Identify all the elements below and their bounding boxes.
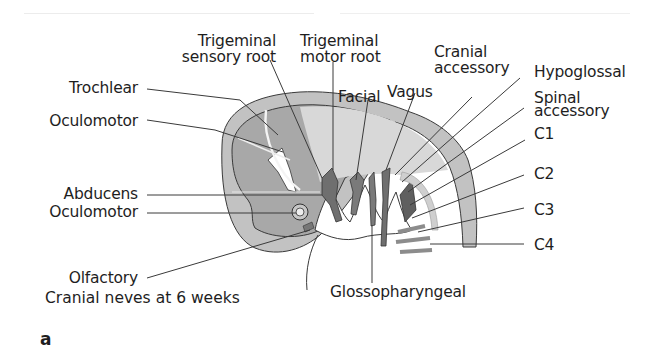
label-line: Trigeminal [300, 33, 381, 49]
label-c1: C1 [534, 126, 554, 142]
label-c2: C2 [534, 166, 554, 182]
label-line: Cranial [434, 44, 509, 60]
label-spinal-accessory: Spinal accessory [534, 92, 609, 118]
label-abducens: Abducens [40, 186, 138, 202]
label-trigeminal-sensory-root: Trigeminal sensory root [180, 33, 276, 65]
label-trigeminal-motor-root: Trigeminal motor root [300, 33, 381, 65]
label-line: Trigeminal [180, 33, 276, 49]
label-c4: C4 [534, 237, 554, 253]
lens [296, 208, 304, 216]
label-oculomotor-lower: Oculomotor [30, 204, 138, 220]
label-oculomotor-upper: Oculomotor [30, 113, 138, 129]
label-glossopharyngeal: Glossopharyngeal [330, 284, 466, 300]
label-line: motor root [300, 49, 381, 65]
figure-caption: Cranial neves at 6 weeks [45, 289, 240, 307]
label-hypoglossal: Hypoglossal [534, 64, 626, 80]
label-cranial-accessory: Cranial accessory [434, 44, 509, 76]
label-line: accessory [434, 60, 509, 76]
label-vagus: Vagus [387, 84, 433, 100]
label-trochlear: Trochlear [40, 80, 138, 96]
panel-label: a [40, 330, 51, 348]
label-facial: Facial [338, 89, 380, 105]
label-line: sensory root [180, 49, 276, 65]
label-olfactory: Olfactory [40, 270, 138, 286]
label-line: accessory [534, 105, 609, 118]
label-c3: C3 [534, 202, 554, 218]
